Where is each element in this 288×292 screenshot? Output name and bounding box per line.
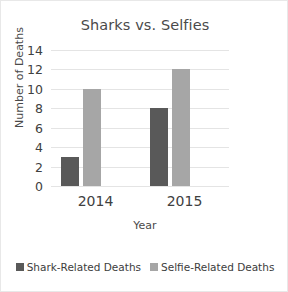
bar [83, 89, 101, 186]
bar [61, 157, 79, 186]
gridline [51, 50, 229, 51]
gridline [51, 89, 229, 90]
legend-item-label: Selfie-Related Deaths [161, 261, 274, 273]
x-axis-title: Year [1, 219, 288, 232]
gridline [51, 69, 229, 70]
gridline [51, 186, 229, 187]
legend-item[interactable]: Shark-Related Deaths [16, 261, 141, 273]
y-tick-label: 12 [3, 62, 43, 77]
y-tick-label: 4 [3, 140, 43, 155]
chart-title: Sharks vs. Selfies [1, 17, 288, 33]
bar-chart-figure: Sharks vs. Selfies Number of Deaths 0246… [0, 0, 288, 292]
x-tick-label: 2015 [140, 193, 229, 209]
x-tick-label: 2014 [51, 193, 140, 209]
y-tick-label: 0 [3, 179, 43, 194]
bar [150, 108, 168, 186]
bar [172, 69, 190, 186]
legend-swatch-icon [16, 263, 24, 271]
y-tick-label: 6 [3, 121, 43, 136]
plot-area: 02468101214 [51, 50, 229, 186]
legend-item[interactable]: Selfie-Related Deaths [150, 261, 274, 273]
y-tick-label: 14 [3, 43, 43, 58]
chart-legend: Shark-Related DeathsSelfie-Related Death… [1, 261, 288, 273]
gridline [51, 147, 229, 148]
gridline [51, 108, 229, 109]
y-tick-label: 8 [3, 101, 43, 116]
gridline [51, 128, 229, 129]
y-tick-label: 10 [3, 82, 43, 97]
legend-swatch-icon [150, 263, 158, 271]
y-tick-label: 2 [3, 160, 43, 175]
legend-item-label: Shark-Related Deaths [27, 261, 141, 273]
